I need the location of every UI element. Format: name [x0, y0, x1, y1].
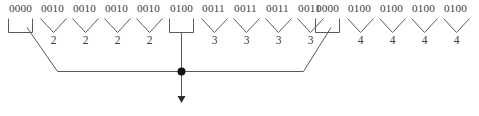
vee-group-7: [234, 19, 260, 33]
vee-group-8: [266, 19, 292, 33]
vee-group-11: [348, 19, 374, 33]
code-label-7: 0011: [229, 2, 262, 15]
code-label-6: 0011: [197, 2, 230, 15]
vee-group-14: [444, 19, 470, 33]
symbol-label-7: 3: [234, 34, 259, 47]
code-label-11: 0100: [343, 2, 376, 15]
symbol-label-4: 2: [137, 34, 162, 47]
vee-group-3: [105, 19, 131, 33]
vee-group-6: [202, 19, 228, 33]
code-label-2: 0010: [68, 2, 101, 15]
vee-group-9: [298, 19, 324, 33]
symbol-label-3: 2: [105, 34, 130, 47]
vee-group-2: [73, 19, 99, 33]
symbol-label-8: 3: [266, 34, 291, 47]
vee-group-12: [380, 19, 406, 33]
symbol-label-2: 2: [73, 34, 98, 47]
code-label-5: 0100: [165, 2, 198, 15]
code-label-8: 0011: [261, 2, 294, 15]
symbol-label-6: 3: [202, 34, 227, 47]
output-arrow-head: [178, 96, 186, 103]
symbol-label-9: 3: [298, 34, 323, 47]
code-label-13: 0100: [407, 2, 440, 15]
code-label-10: 0000: [311, 2, 344, 15]
code-label-1: 0010: [36, 2, 69, 15]
diagram-connector-lines: [0, 0, 479, 116]
bracket-group-5: [170, 19, 194, 33]
code-label-0: 0000: [4, 2, 37, 15]
vee-group-4: [137, 19, 163, 33]
diagram-caption: [0, 106, 479, 116]
vee-group-13: [412, 19, 438, 33]
bracket-group-10: [316, 19, 340, 33]
junction-dot: [178, 68, 186, 76]
binary-code-grouping-diagram: 0000 0010 0010 0010 0010 0100 0011 0011 …: [0, 0, 479, 116]
code-label-12: 0100: [375, 2, 408, 15]
symbol-label-11: 4: [348, 34, 373, 47]
code-label-4: 0010: [132, 2, 165, 15]
code-label-14: 0100: [439, 2, 472, 15]
symbol-label-13: 4: [412, 34, 437, 47]
symbol-label-1: 2: [41, 34, 66, 47]
code-label-3: 0010: [100, 2, 133, 15]
symbol-label-12: 4: [380, 34, 405, 47]
vee-group-1: [41, 19, 67, 33]
symbol-label-14: 4: [444, 34, 469, 47]
